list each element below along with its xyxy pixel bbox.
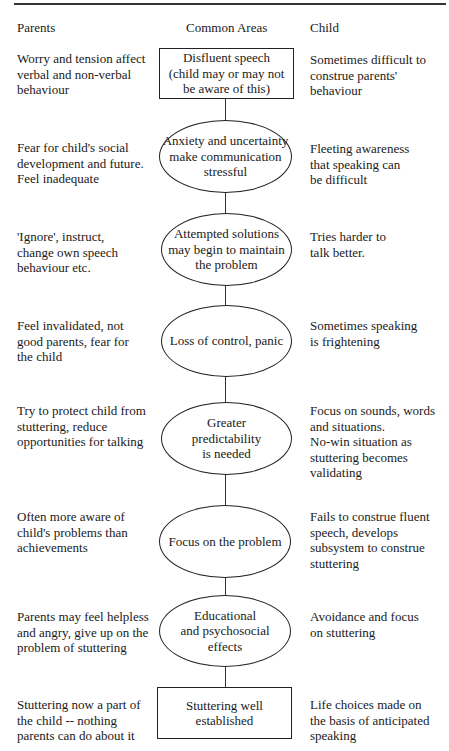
connector [225, 475, 226, 505]
header-common-areas: Common Areas [186, 20, 267, 36]
parents-text: Worry and tension affect verbal and non-… [17, 51, 157, 98]
common-node-ellipse: Loss of control, panic [161, 305, 292, 377]
parents-text: Try to protect child from stuttering, re… [17, 403, 157, 450]
connector [225, 193, 226, 213]
connector [225, 286, 226, 305]
connector [225, 99, 226, 120]
child-text: Life choices made on the basis of antici… [310, 697, 445, 744]
child-text: Sometimes speaking is frightening [310, 318, 445, 349]
parents-text: Fear for child's social development and … [17, 140, 157, 187]
common-node-ellipse: Educational and psychosocial effects [159, 595, 291, 667]
top-rule [14, 3, 446, 5]
child-text: Sometimes difficult to construe parents'… [310, 52, 445, 99]
common-node-box: Disfluent speech (child may or may not b… [159, 48, 294, 99]
child-text: Focus on sounds, words and situations. N… [310, 403, 445, 481]
connector [225, 667, 226, 687]
header-parents: Parents [17, 20, 55, 36]
parents-text: Parents may feel helpless and angry, giv… [17, 609, 157, 656]
common-node-ellipse: Greater predictability is needed [161, 402, 292, 475]
parents-text: Often more aware of child's problems tha… [17, 509, 157, 556]
connector [225, 578, 226, 595]
child-text: Avoidance and focus on stuttering [310, 609, 445, 640]
parents-text: Stuttering now a part of the child -- no… [17, 697, 157, 744]
common-node-ellipse: Focus on the problem [159, 505, 291, 578]
connector [225, 377, 226, 402]
child-text: Fails to construe fluent speech, develop… [310, 509, 445, 571]
child-text: Fleeting awareness that speaking can be … [310, 141, 445, 188]
common-node-box: Stuttering well established [157, 687, 292, 739]
parents-text: 'Ignore', instruct, change own speech be… [17, 229, 157, 276]
common-node-ellipse: Anxiety and uncertainty make communicati… [159, 120, 292, 193]
parents-text: Feel invalidated, not good parents, fear… [17, 318, 157, 365]
header-child: Child [310, 20, 339, 36]
child-text: Tries harder to talk better. [310, 229, 445, 260]
common-node-ellipse: Attempted solutions may begin to maintai… [161, 213, 292, 286]
